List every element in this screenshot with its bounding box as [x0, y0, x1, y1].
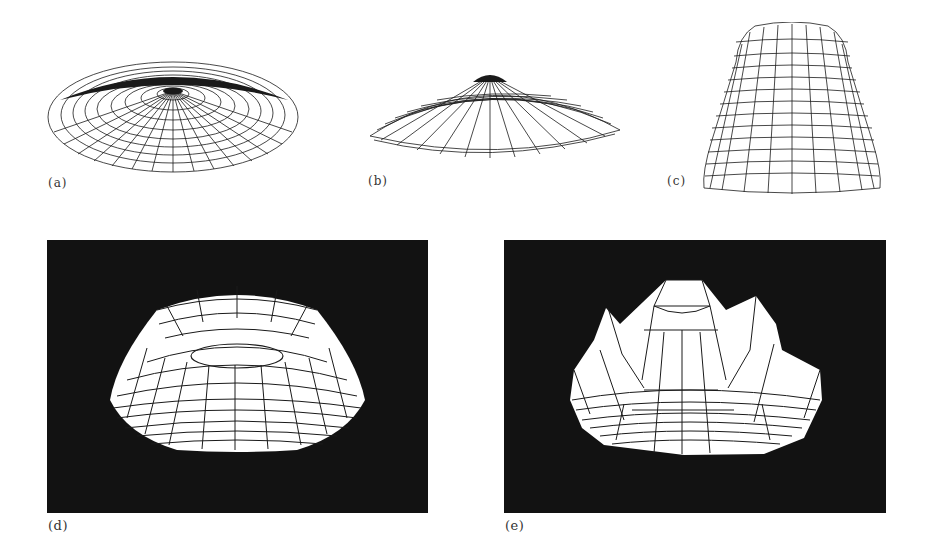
panel-c	[690, 22, 890, 194]
panel-a	[40, 60, 315, 180]
panel-label-a: (a)	[48, 176, 68, 190]
bell-wireframe-c	[690, 22, 890, 194]
panel-label-d: (d)	[48, 518, 68, 533]
panel-label-b: (b)	[368, 174, 388, 188]
ring-solid-d	[47, 240, 428, 513]
panel-e	[504, 240, 886, 513]
panel-b	[365, 68, 625, 163]
panel-d	[47, 240, 428, 513]
crown-solid-e	[504, 240, 886, 513]
panel-label-e: (e)	[505, 518, 524, 533]
dome-wireframe-a	[40, 60, 315, 180]
dome-wireframe-b	[365, 68, 625, 163]
panel-label-c: (c)	[667, 174, 686, 188]
